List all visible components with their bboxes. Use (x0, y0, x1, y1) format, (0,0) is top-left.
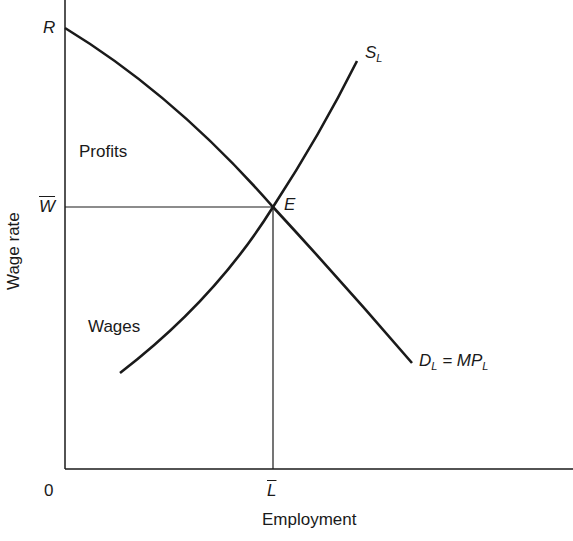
demand-d: D (419, 351, 431, 370)
supply-sub: L (376, 52, 382, 64)
employment-l-label: L (267, 482, 276, 499)
wages-region-label: Wages (88, 318, 140, 335)
demand-curve-label: DL = MPL (419, 352, 488, 369)
demand-curve (65, 28, 412, 363)
supply-curve (120, 61, 357, 373)
diagram-canvas (0, 0, 573, 541)
intercept-r-label: R (43, 19, 55, 36)
demand-eq: = MP (437, 351, 482, 370)
supply-curve-label: SL (365, 44, 382, 61)
supply-main: S (365, 43, 376, 62)
demand-mp-sub: L (482, 360, 488, 372)
x-axis-title: Employment (262, 511, 356, 528)
origin-label: 0 (44, 482, 53, 499)
y-axis-title: Wage rate (4, 212, 24, 290)
wage-w-label: W (39, 198, 55, 215)
equilibrium-e-label: E (284, 196, 295, 213)
profits-region-label: Profits (79, 143, 127, 160)
demand-d-sub: L (431, 360, 437, 372)
